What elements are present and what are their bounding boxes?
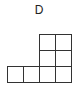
- grid-cell: [55, 66, 72, 83]
- grid-cell: [23, 66, 40, 83]
- grid-cell: [39, 50, 56, 67]
- grid-cell: [7, 66, 24, 83]
- grid-cell: [55, 34, 72, 51]
- grid-cell: [39, 34, 56, 51]
- polyomino-grid: [0, 0, 78, 89]
- grid-cell: [39, 66, 56, 83]
- grid-cell: [55, 50, 72, 67]
